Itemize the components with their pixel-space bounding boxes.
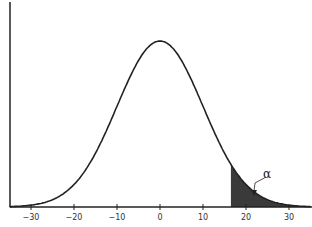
- x-tick-label: 10: [198, 213, 208, 222]
- normal-distribution-chart: −30−20−100102030 α: [0, 0, 312, 227]
- x-tick-label: −20: [66, 213, 83, 222]
- x-tick-label: 20: [241, 213, 251, 222]
- x-tick-label: −10: [109, 213, 126, 222]
- alpha-label: α: [263, 167, 271, 181]
- x-tick-label: 30: [284, 213, 294, 222]
- normal-curve: [10, 41, 311, 207]
- x-tick-label: 0: [157, 213, 162, 222]
- x-tick-label: −30: [23, 213, 40, 222]
